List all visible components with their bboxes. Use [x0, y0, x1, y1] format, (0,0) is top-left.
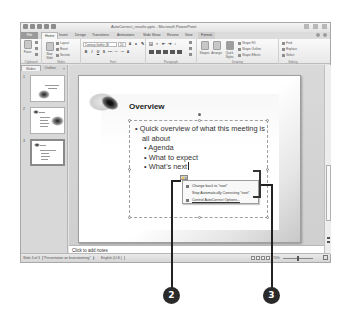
maximize-icon[interactable] — [313, 24, 318, 29]
align-left-icon[interactable] — [149, 50, 154, 54]
shapes-button[interactable]: Shapes — [199, 41, 210, 55]
italic-button[interactable]: I — [90, 50, 94, 54]
font-name-select[interactable]: Century Gothic (B — [83, 42, 117, 47]
align-center-icon[interactable] — [156, 50, 161, 54]
slide-show-view-icon[interactable] — [266, 256, 270, 260]
close-pane-icon[interactable]: × — [63, 66, 65, 71]
content-placeholder[interactable]: • Quick overview of what this meeting is… — [129, 120, 268, 218]
text-direction-button[interactable] — [189, 41, 192, 44]
rotate-handle[interactable] — [198, 113, 201, 116]
tab-home[interactable]: Home — [41, 32, 58, 39]
spell-check-icon[interactable]: ✓ — [93, 256, 98, 260]
previous-slide-icon[interactable] — [327, 237, 330, 239]
slide-thumbnail-2[interactable] — [30, 107, 65, 134]
cut-button[interactable] — [35, 41, 38, 44]
shape-outline-button[interactable]: Shape Outline — [238, 47, 261, 51]
font-size-select[interactable]: 20 — [118, 42, 126, 47]
tab-insert[interactable]: Insert — [59, 33, 68, 37]
zoom-slider[interactable] — [283, 258, 313, 259]
align-right-icon[interactable] — [163, 50, 168, 54]
shape-fill-button[interactable]: Shape Fill — [238, 41, 255, 45]
replace-button[interactable]: Replace — [282, 47, 297, 51]
tab-format[interactable]: Format — [198, 32, 215, 39]
paste-button[interactable]: Paste — [22, 40, 33, 54]
minimize-icon[interactable] — [304, 24, 309, 29]
vertical-scrollbar[interactable] — [324, 65, 331, 254]
tab-view[interactable]: View — [185, 33, 193, 37]
normal-view-icon[interactable] — [251, 256, 255, 260]
format-painter-button[interactable] — [35, 53, 38, 56]
tab-slide-show[interactable]: Slide Show — [143, 33, 161, 37]
reset-button[interactable]: Reset — [56, 47, 68, 51]
new-slide-button[interactable]: New Slide — [44, 42, 55, 60]
language-indicator[interactable]: English (U.S.) — [101, 256, 125, 260]
decrease-indent-icon[interactable]: ⇤ — [161, 42, 165, 46]
tab-design[interactable]: Design — [75, 33, 86, 37]
copy-button[interactable] — [35, 47, 38, 50]
underline-button[interactable]: U — [96, 50, 100, 54]
resize-handle[interactable] — [198, 216, 201, 219]
line-spacing-icon[interactable]: ↕ — [173, 42, 177, 46]
tab-outline[interactable]: Outline — [41, 65, 60, 71]
clear-format-icon[interactable]: ✎ — [140, 42, 144, 46]
resize-handle[interactable] — [128, 119, 131, 122]
bullets-icon[interactable]: ≡ — [149, 42, 153, 46]
save-icon[interactable] — [30, 24, 35, 29]
menu-item-change-back[interactable]: Change back to "nxet" — [186, 184, 228, 188]
increase-indent-icon[interactable]: ⇥ — [167, 42, 171, 46]
spacing-button[interactable]: AV — [114, 50, 118, 54]
slide-title[interactable]: Overview — [129, 102, 165, 111]
font-color-button[interactable]: A — [126, 50, 130, 54]
justify-icon[interactable] — [170, 50, 175, 54]
resize-handle[interactable] — [198, 119, 201, 122]
resize-handle[interactable] — [128, 216, 131, 219]
columns-icon[interactable] — [177, 50, 182, 54]
thumbnail-text-line — [40, 120, 48, 121]
slide-logo-image[interactable] — [89, 89, 121, 115]
help-icon[interactable] — [323, 33, 327, 37]
undo-icon[interactable] — [37, 24, 42, 29]
minimize-ribbon-icon[interactable] — [316, 33, 320, 37]
slide-thumbnail-3[interactable] — [30, 139, 65, 166]
slide-indicator: Slide 3 of 3 — [23, 256, 43, 260]
zoom-level[interactable]: 70% — [273, 256, 280, 260]
app-icon[interactable] — [23, 24, 28, 29]
menu-item-stop-correcting[interactable]: Stop Automatically Correcting "nxet" — [186, 191, 249, 195]
find-button[interactable]: Find — [282, 41, 292, 45]
slide-canvas[interactable]: Overview • Quick overview of what this m… — [78, 75, 301, 243]
menu-item-control-options[interactable]: Control AutoCorrect Options... — [186, 198, 240, 202]
zoom-slider-knob[interactable] — [297, 256, 299, 261]
change-case-button[interactable]: Aa — [120, 50, 124, 54]
shape-effects-button[interactable]: Shape Effects — [238, 53, 261, 57]
arrange-button[interactable]: Arrange — [211, 41, 222, 55]
tab-transitions[interactable]: Transitions — [92, 33, 109, 37]
align-text-button[interactable] — [189, 47, 192, 50]
select-button[interactable]: Select — [282, 53, 294, 57]
customize-icon[interactable] — [51, 24, 56, 29]
shadow-button[interactable]: S — [102, 50, 106, 54]
resize-handle[interactable] — [266, 119, 269, 122]
scrollbar-thumb[interactable] — [326, 165, 331, 221]
close-icon[interactable] — [322, 24, 327, 29]
section-button[interactable]: Section — [56, 53, 70, 57]
strikethrough-button[interactable]: abc — [108, 50, 112, 54]
bold-button[interactable]: B — [84, 50, 88, 54]
tab-review[interactable]: Review — [167, 33, 178, 37]
shrink-font-icon[interactable]: a — [134, 42, 138, 46]
layout-button[interactable]: Layout — [56, 41, 69, 45]
next-slide-icon[interactable] — [327, 241, 330, 243]
tab-animations[interactable]: Animations — [117, 33, 134, 37]
smartart-button[interactable] — [189, 53, 192, 56]
quick-styles-button[interactable]: Quick Styles — [224, 41, 235, 59]
tab-file[interactable]: File — [21, 32, 38, 39]
tab-slides[interactable]: Slides — [21, 65, 41, 71]
slide-thumbnail-1[interactable] — [30, 75, 65, 102]
redo-icon[interactable] — [44, 24, 49, 29]
slide-sorter-view-icon[interactable] — [256, 256, 260, 260]
resize-handle[interactable] — [266, 216, 269, 219]
resize-handle[interactable] — [128, 168, 131, 171]
numbering-icon[interactable]: ≡ — [155, 42, 159, 46]
reading-view-icon[interactable] — [261, 256, 265, 260]
fit-to-window-icon[interactable] — [323, 255, 328, 260]
grow-font-icon[interactable]: A — [128, 42, 132, 46]
